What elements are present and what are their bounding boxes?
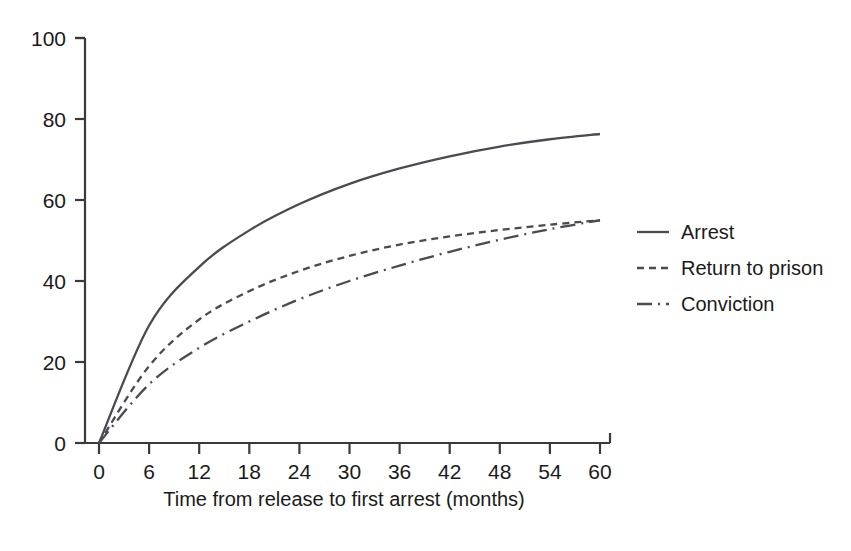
y-axis-tick-label: 0 <box>54 432 66 455</box>
y-axis-tick-label: 20 <box>43 351 66 374</box>
x-axis-tick-label: 30 <box>338 460 361 483</box>
x-axis-tick-label: 6 <box>143 460 155 483</box>
x-axis-tick-label: 12 <box>188 460 211 483</box>
x-axis-tick-label: 0 <box>93 460 105 483</box>
y-axis-tick-label: 40 <box>43 270 66 293</box>
x-axis-tick-label: 24 <box>288 460 312 483</box>
x-axis-tick-label: 48 <box>488 460 511 483</box>
x-axis-tick-label: 60 <box>588 460 611 483</box>
legend-label-arrest: Arrest <box>681 221 735 243</box>
legend-label-conviction: Conviction <box>681 293 774 315</box>
recidivism-line-chart: 06121824303642485460 020406080100 Time f… <box>0 0 851 551</box>
x-axis-title: Time from release to first arrest (month… <box>163 488 525 510</box>
y-axis-tick-label: 100 <box>31 27 66 50</box>
y-axis-tick-label: 60 <box>43 189 66 212</box>
x-axis-tick-label: 18 <box>238 460 261 483</box>
x-axis-tick-label: 36 <box>388 460 411 483</box>
x-axis-tick-label: 54 <box>538 460 562 483</box>
chart-figure: 06121824303642485460 020406080100 Time f… <box>0 0 851 551</box>
x-axis-tick-label: 42 <box>438 460 461 483</box>
y-axis-tick-label: 80 <box>43 108 66 131</box>
legend-label-return-to-prison: Return to prison <box>681 257 823 279</box>
